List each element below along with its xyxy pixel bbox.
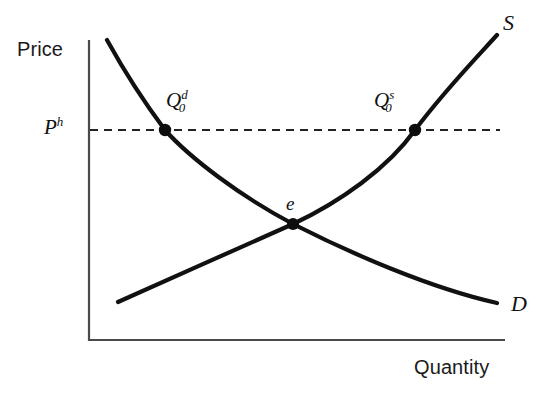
price-ceiling-base: P bbox=[44, 115, 57, 139]
plot-canvas bbox=[0, 0, 544, 394]
demand-curve-label: D bbox=[511, 291, 527, 317]
quantity-demanded-label: Qd0 bbox=[166, 88, 194, 113]
price-ceiling-label: Ph bbox=[44, 115, 63, 140]
equilibrium-point-label: e bbox=[286, 193, 294, 215]
quantity-supplied-subscript: 0 bbox=[385, 100, 392, 115]
quantity-demanded-subscript: 0 bbox=[179, 100, 186, 115]
supply-curve bbox=[118, 35, 497, 302]
equilibrium-point-marker bbox=[287, 218, 299, 230]
demand-curve bbox=[107, 40, 497, 303]
quantity-demanded-point-marker bbox=[159, 124, 171, 136]
supply-demand-figure: Price Quantity S D e Ph Qd0 Qs0 bbox=[0, 0, 544, 394]
y-axis-label: Price bbox=[17, 38, 63, 61]
quantity-supplied-label: Qs0 bbox=[374, 88, 401, 113]
quantity-supplied-point-marker bbox=[409, 124, 421, 136]
price-ceiling-superscript: h bbox=[57, 114, 64, 129]
supply-curve-label: S bbox=[503, 10, 514, 36]
x-axis-label: Quantity bbox=[414, 356, 489, 379]
